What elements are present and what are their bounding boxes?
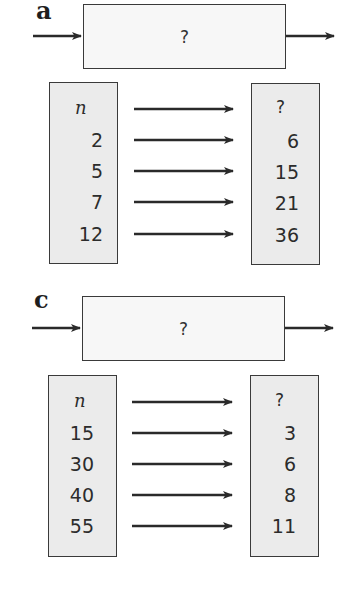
output-value: 3 — [284, 424, 296, 443]
output-column-c: ? 3 6 8 11 — [250, 375, 319, 557]
input-header-c: n — [74, 392, 86, 410]
input-value: 2 — [91, 131, 103, 150]
diagram-label-a: a — [36, 0, 52, 25]
input-column-c: n 15 30 40 55 — [48, 375, 117, 557]
output-header-c: ? — [275, 392, 284, 409]
output-value: 11 — [272, 517, 296, 536]
diagram-label-c: c — [34, 285, 49, 314]
input-value: 5 — [91, 162, 103, 181]
output-value: 15 — [275, 163, 299, 182]
output-value: 36 — [275, 226, 299, 245]
input-column-a: n 2 5 7 12 — [49, 82, 118, 264]
output-value: 21 — [275, 194, 299, 213]
input-value: 30 — [70, 455, 94, 474]
input-value: 15 — [70, 424, 94, 443]
input-header-a: n — [75, 99, 87, 117]
input-value: 40 — [70, 486, 94, 505]
output-header-a: ? — [276, 99, 285, 116]
input-value: 55 — [70, 517, 94, 536]
output-value: 6 — [287, 132, 299, 151]
output-column-a: ? 6 15 21 36 — [251, 83, 320, 265]
function-machine-a: ? — [83, 4, 286, 69]
input-value: 12 — [79, 225, 103, 244]
function-machine-c: ? — [82, 296, 285, 361]
output-value: 6 — [284, 455, 296, 474]
input-value: 7 — [91, 193, 103, 212]
output-value: 8 — [284, 486, 296, 505]
